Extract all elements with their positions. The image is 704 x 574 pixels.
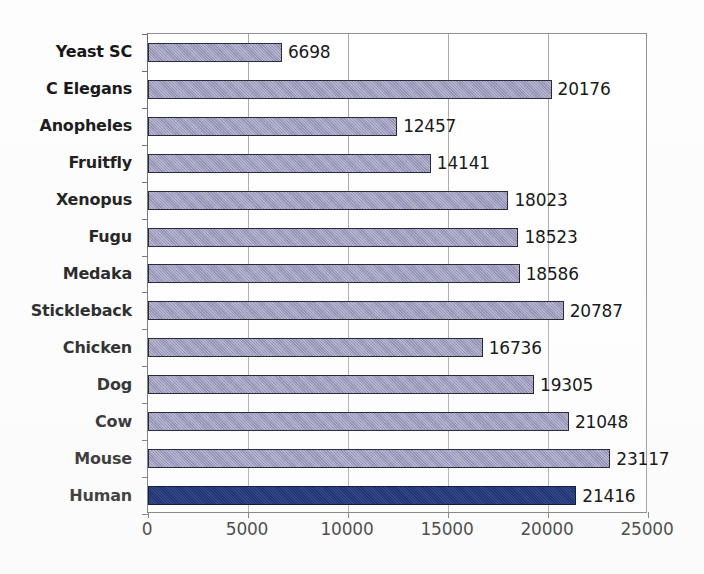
bar-value-label: 23117 xyxy=(616,449,669,469)
bar-value-label: 20176 xyxy=(558,79,611,99)
category-label: Dog xyxy=(0,374,132,393)
bar-row: 6698 xyxy=(148,34,646,71)
category-label: Anopheles xyxy=(0,116,132,135)
category-label: Medaka xyxy=(0,264,132,283)
bar: 21048 xyxy=(148,412,569,431)
x-tick-label: 15000 xyxy=(420,519,473,539)
bar-value-label: 18523 xyxy=(524,227,577,247)
category-axis-labels: Yeast SCC ElegansAnophelesFruitflyXenopu… xyxy=(0,33,140,513)
bar: 20787 xyxy=(148,301,564,320)
bar: 21416 xyxy=(148,486,576,505)
y-tick-mark xyxy=(142,145,148,146)
category-label: Xenopus xyxy=(0,190,132,209)
bar-value-label: 21416 xyxy=(582,486,635,506)
category-label: Fruitfly xyxy=(0,153,132,172)
bar: 20176 xyxy=(148,80,552,99)
y-tick-mark xyxy=(142,366,148,367)
category-label: Stickleback xyxy=(0,300,132,319)
bar-value-label: 20787 xyxy=(570,301,623,321)
y-tick-mark xyxy=(142,477,148,478)
bar: 14141 xyxy=(148,154,431,173)
bar-row: 23117 xyxy=(148,440,646,477)
bar-value-label: 16736 xyxy=(489,338,542,358)
bar-value-label: 12457 xyxy=(403,116,456,136)
category-label: Chicken xyxy=(0,337,132,356)
x-tick-label: 25000 xyxy=(620,519,673,539)
x-tick-mark xyxy=(448,512,449,518)
category-label: Mouse xyxy=(0,448,132,467)
x-tick-mark xyxy=(648,512,649,518)
y-tick-mark xyxy=(142,71,148,72)
bar-value-label: 18586 xyxy=(526,264,579,284)
bar-chart: Yeast SCC ElegansAnophelesFruitflyXenopu… xyxy=(0,0,704,574)
bar-row: 20176 xyxy=(148,71,646,108)
bar: 16736 xyxy=(148,338,483,357)
x-tick-label: 10000 xyxy=(320,519,373,539)
y-tick-mark xyxy=(142,182,148,183)
bar-row: 12457 xyxy=(148,108,646,145)
x-tick-mark xyxy=(348,512,349,518)
y-tick-mark xyxy=(142,440,148,441)
y-tick-mark xyxy=(142,108,148,109)
bar: 18523 xyxy=(148,228,518,247)
bar-row: 21048 xyxy=(148,403,646,440)
bar: 18586 xyxy=(148,264,520,283)
bar-row: 21416 xyxy=(148,477,646,514)
y-tick-mark xyxy=(142,219,148,220)
y-tick-mark xyxy=(142,403,148,404)
y-tick-mark xyxy=(142,34,148,35)
category-label: Cow xyxy=(0,411,132,430)
bar: 18023 xyxy=(148,191,508,210)
bar-row: 18586 xyxy=(148,256,646,293)
bar: 6698 xyxy=(148,43,282,62)
bar-value-label: 21048 xyxy=(575,412,628,432)
plot-area: 6698201761245714141180231852318586207871… xyxy=(147,33,647,513)
bar: 19305 xyxy=(148,375,534,394)
x-tick-label: 5000 xyxy=(226,519,268,539)
y-tick-mark xyxy=(142,256,148,257)
value-axis-labels: 0500010000150002000025000 xyxy=(147,519,647,549)
bar-value-label: 6698 xyxy=(288,42,330,62)
x-tick-mark xyxy=(248,512,249,518)
x-tick-mark xyxy=(148,512,149,518)
y-tick-mark xyxy=(142,514,148,515)
y-tick-mark xyxy=(142,292,148,293)
bar-row: 19305 xyxy=(148,366,646,403)
bar-row: 18023 xyxy=(148,182,646,219)
x-tick-label: 20000 xyxy=(520,519,573,539)
category-label: C Elegans xyxy=(0,79,132,98)
y-tick-mark xyxy=(142,329,148,330)
category-label: Fugu xyxy=(0,227,132,246)
bar-row: 14141 xyxy=(148,145,646,182)
bar: 12457 xyxy=(148,117,397,136)
category-label: Yeast SC xyxy=(0,42,132,61)
bar-value-label: 14141 xyxy=(437,153,490,173)
bar-row: 16736 xyxy=(148,329,646,366)
bar-value-label: 18023 xyxy=(514,190,567,210)
bar-row: 20787 xyxy=(148,292,646,329)
category-label: Human xyxy=(0,485,132,504)
bar-value-label: 19305 xyxy=(540,375,593,395)
bar-row: 18523 xyxy=(148,219,646,256)
x-tick-mark xyxy=(548,512,549,518)
x-tick-label: 0 xyxy=(142,519,153,539)
bar: 23117 xyxy=(148,449,610,468)
